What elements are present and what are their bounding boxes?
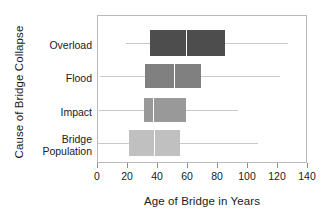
x-tick-mark: [187, 163, 188, 168]
x-tick-mark: [127, 163, 128, 168]
median-line: [186, 30, 187, 56]
y-category-label-impact: Impact: [0, 107, 92, 119]
x-tick-mark: [277, 163, 278, 168]
x-tick-mark: [247, 163, 248, 168]
x-tick-label: 140: [287, 170, 327, 182]
y-category-label-bridge-population-line2: Population: [0, 146, 92, 158]
median-line: [174, 64, 175, 88]
x-tick-mark: [97, 163, 98, 168]
box-rect-impact: [144, 98, 186, 122]
median-line: [153, 98, 154, 122]
x-tick-mark: [307, 163, 308, 168]
x-tick-mark: [157, 163, 158, 168]
box-plot-figure: Cause of Bridge Collapse Age of Bridge i…: [0, 0, 332, 219]
x-axis-title: Age of Bridge in Years: [97, 195, 307, 207]
y-category-label-bridge-population-line1: Bridge: [0, 134, 92, 146]
x-tick-mark: [217, 163, 218, 168]
box-rect-overload: [150, 30, 225, 56]
y-category-label-overload: Overload: [0, 40, 92, 52]
median-line: [154, 130, 155, 156]
y-category-label-flood: Flood: [0, 73, 92, 85]
